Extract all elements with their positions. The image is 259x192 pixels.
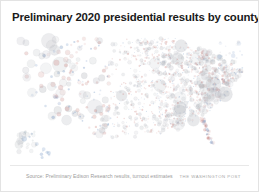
county-dots-group: [15, 33, 244, 159]
footer: Source: Preliminary Edison Research resu…: [1, 165, 258, 191]
source-note: Source: Preliminary Edison Research resu…: [26, 173, 173, 180]
page-title: Preliminary 2020 presidential results by…: [12, 10, 248, 24]
publisher-credit: THE WASHINGTON POST: [179, 174, 241, 180]
title-block: Preliminary 2020 presidential results by…: [12, 10, 248, 26]
footer-divider: [10, 165, 249, 166]
figure-container: Preliminary 2020 presidential results by…: [0, 0, 259, 192]
county-dot-map[interactable]: [7, 27, 254, 163]
map-svg: [7, 27, 254, 163]
